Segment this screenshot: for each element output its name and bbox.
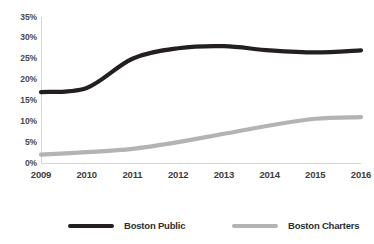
y-axis-tick-label: 20%: [3, 75, 37, 84]
series-lines: [41, 17, 361, 163]
y-axis-tick-label: 0%: [3, 159, 37, 168]
chart-title-cropped: [60, 0, 360, 2]
x-axis-line: [41, 163, 361, 164]
y-axis-tick-label: 35%: [3, 13, 37, 22]
x-axis-tick-labels: 20092010201120122013201420152016: [41, 169, 361, 183]
x-axis-tick-label: 2009: [21, 169, 61, 181]
x-axis-tick-label: 2011: [112, 169, 152, 181]
x-axis-tick-label: 2015: [295, 169, 335, 181]
y-axis-tick-label: 15%: [3, 96, 37, 105]
x-axis-tick-label: 2016: [341, 169, 374, 181]
legend-item-label: Boston Charters: [288, 220, 359, 232]
chart-legend: Boston Public Boston Charters: [0, 216, 374, 236]
legend-swatch-icon: [232, 224, 278, 228]
y-axis-tick-label: 25%: [3, 54, 37, 63]
x-axis-tick-label: 2012: [158, 169, 198, 181]
legend-item-boston-public[interactable]: Boston Public: [68, 216, 185, 236]
series-line-boston-public: [41, 46, 361, 92]
legend-swatch-icon: [68, 224, 114, 228]
legend-item-boston-charters[interactable]: Boston Charters: [232, 216, 359, 236]
x-axis-tick-label: 2014: [250, 169, 290, 181]
line-chart: 35%30%25%20%15%10%5%0% 20092010201120122…: [0, 0, 374, 244]
x-axis-tick-label: 2010: [67, 169, 107, 181]
plot-area: [41, 17, 361, 163]
y-axis-tick-label: 5%: [3, 138, 37, 147]
series-line-boston-charters: [41, 117, 361, 155]
y-axis-tick-labels: 35%30%25%20%15%10%5%0%: [0, 0, 37, 244]
y-axis-tick-label: 30%: [3, 33, 37, 42]
legend-item-label: Boston Public: [124, 220, 185, 232]
y-axis-tick-label: 10%: [3, 117, 37, 126]
x-axis-tick-label: 2013: [204, 169, 244, 181]
